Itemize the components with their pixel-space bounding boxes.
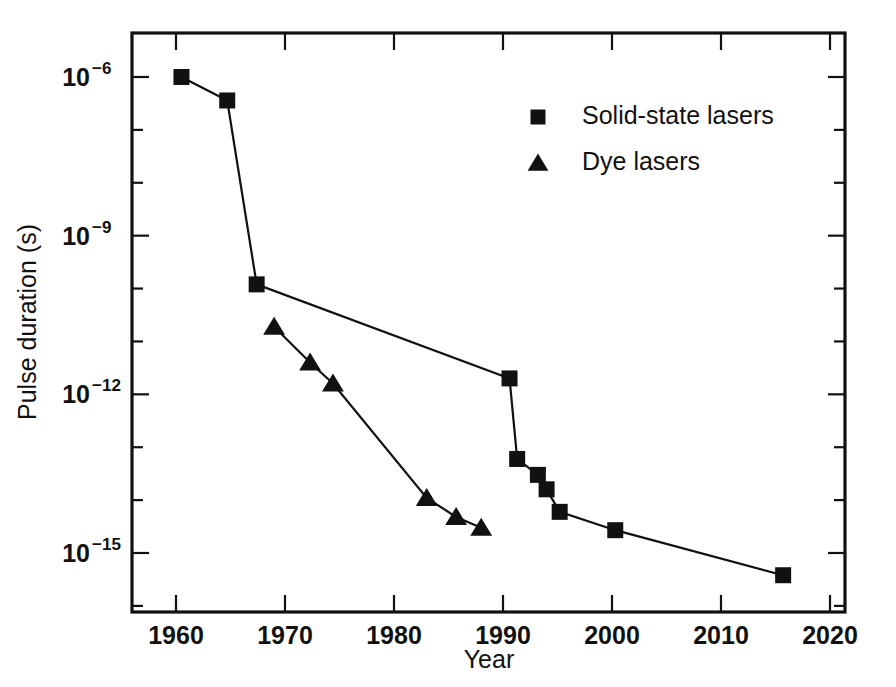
x-tick-label: 1980 bbox=[366, 621, 422, 649]
data-point-marker bbox=[509, 451, 525, 467]
legend-label: Dye lasers bbox=[582, 147, 700, 175]
x-tick-label: 2000 bbox=[584, 621, 640, 649]
y-axis-title: Pulse duration (s) bbox=[13, 224, 41, 420]
data-point-marker bbox=[249, 276, 265, 292]
data-point-marker bbox=[219, 92, 235, 108]
x-axis-title: Year bbox=[464, 645, 515, 673]
y-tick-label-mantissa: 10 bbox=[62, 222, 90, 250]
x-tick-label: 2010 bbox=[693, 621, 749, 649]
x-tick-label: 1970 bbox=[257, 621, 313, 649]
data-point-marker bbox=[530, 467, 546, 483]
y-tick-label-mantissa: 10 bbox=[62, 380, 90, 408]
y-tick-label-exponent: −15 bbox=[92, 535, 121, 554]
data-point-marker bbox=[775, 567, 791, 583]
y-tick-label-exponent: −12 bbox=[92, 376, 121, 395]
y-tick-label-mantissa: 10 bbox=[62, 63, 90, 91]
data-point-marker bbox=[607, 522, 623, 538]
legend-square-icon bbox=[531, 110, 546, 125]
chart-figure: 1960197019801990200020102020 10−610−910−… bbox=[0, 0, 896, 687]
x-tick-label: 1960 bbox=[148, 621, 204, 649]
y-tick-label-exponent: −9 bbox=[92, 218, 111, 237]
pulse-duration-vs-year-chart: 1960197019801990200020102020 10−610−910−… bbox=[0, 0, 896, 687]
data-point-marker bbox=[173, 69, 189, 85]
data-point-marker bbox=[502, 370, 518, 386]
x-tick-label: 2020 bbox=[802, 621, 858, 649]
y-tick-label-exponent: −6 bbox=[92, 59, 111, 78]
legend-label: Solid-state lasers bbox=[582, 101, 774, 129]
data-point-marker bbox=[552, 504, 568, 520]
data-point-marker bbox=[539, 481, 555, 497]
y-tick-label-mantissa: 10 bbox=[62, 539, 90, 567]
